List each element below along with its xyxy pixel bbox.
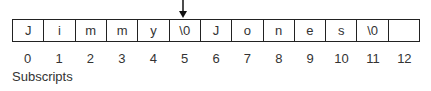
array-cell-6: J: [201, 20, 232, 41]
array-cell-11: \0: [357, 20, 388, 41]
array-cell-9: e: [295, 20, 326, 41]
array-cell-5: \0: [170, 20, 201, 41]
subscript-8: 8: [263, 51, 294, 66]
subscript-0: 0: [12, 51, 43, 66]
subscript-10: 10: [326, 51, 357, 66]
subscript-3: 3: [106, 51, 137, 66]
array-cell-8: n: [264, 20, 295, 41]
subscript-6: 6: [200, 51, 231, 66]
subscript-1: 1: [43, 51, 74, 66]
char-array: J i m m y \0 J o n e s \0: [12, 19, 420, 42]
subscript-2: 2: [75, 51, 106, 66]
array-cell-2: m: [76, 20, 107, 41]
array-cell-12: [389, 20, 419, 41]
subscript-9: 9: [295, 51, 326, 66]
array-cell-1: i: [44, 20, 75, 41]
subscript-row: 0 1 2 3 4 5 6 7 8 9 10 11 12: [12, 51, 420, 66]
subscript-12: 12: [389, 51, 420, 66]
array-cell-4: y: [138, 20, 169, 41]
subscript-7: 7: [232, 51, 263, 66]
subscript-11: 11: [357, 51, 388, 66]
array-cell-7: o: [232, 20, 263, 41]
array-cell-0: J: [13, 20, 44, 41]
subscript-5: 5: [169, 51, 200, 66]
subscript-4: 4: [138, 51, 169, 66]
array-cell-3: m: [107, 20, 138, 41]
array-cell-10: s: [326, 20, 357, 41]
pointer-arrow-icon: [178, 0, 188, 19]
subscripts-caption: Subscripts: [12, 69, 73, 84]
